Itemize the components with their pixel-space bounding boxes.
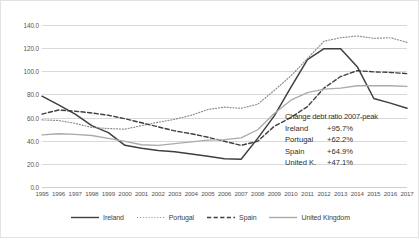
legend-swatch — [71, 214, 99, 221]
x-axis-tick-label: 2008 — [251, 190, 264, 197]
y-axis-tick-label: 80.0 — [27, 91, 39, 98]
y-axis-tick-label: 100.0 — [24, 68, 40, 75]
annotation-value: +62.2% — [327, 134, 353, 146]
x-axis-tick-label: 2005 — [201, 190, 214, 197]
y-axis-tick-label: 140.0 — [24, 22, 40, 29]
x-axis-tick-label: 2001 — [135, 190, 148, 197]
x-axis-tick-label: 2002 — [152, 190, 165, 197]
x-axis-tick-label: 1996 — [52, 190, 65, 197]
annotation-row: Portugal+62.2% — [285, 134, 378, 146]
legend-label: Portugal — [169, 214, 194, 221]
legend-swatch — [137, 214, 165, 221]
x-axis-tick-label: 2004 — [185, 190, 198, 197]
chart-legend: IrelandPortugalSpainUnited Kingdom — [1, 214, 419, 221]
legend-label: United Kingdom — [301, 214, 349, 221]
annotation-country-label: Spain — [285, 146, 327, 158]
legend-swatch — [207, 214, 235, 221]
x-axis-tick-label: 2012 — [317, 190, 330, 197]
annotation-value: +95.7% — [327, 123, 353, 135]
y-axis-tick-label: 120.0 — [24, 45, 40, 52]
chart-container: 0.020.040.060.080.0100.0120.0140.0 19951… — [0, 0, 419, 238]
y-axis-tick-labels: 0.020.040.060.080.0100.0120.0140.0 — [1, 25, 39, 187]
legend-item-ireland[interactable]: Ireland — [71, 214, 124, 221]
x-axis-tick-label: 2014 — [351, 190, 364, 197]
annotation-row: Ireland+95.7% — [285, 123, 378, 135]
annotation-value: +64.9% — [327, 146, 353, 158]
x-axis-tick-label: 2015 — [367, 190, 380, 197]
gridline — [42, 187, 407, 188]
x-axis-tick-label: 1995 — [35, 190, 48, 197]
x-axis-tick-label: 2010 — [284, 190, 297, 197]
annotation-country-label: Portugal — [285, 134, 327, 146]
x-axis-tick-label: 2009 — [268, 190, 281, 197]
annotation-row: United K.+47.1% — [285, 157, 378, 169]
annotation-title: Change debt ratio 2007-peak — [285, 111, 378, 123]
legend-label: Ireland — [103, 214, 124, 221]
legend-item-portugal[interactable]: Portugal — [137, 214, 194, 221]
legend-swatch — [269, 214, 297, 221]
annotation-value: +47.1% — [327, 157, 353, 169]
annotation-box: Change debt ratio 2007-peak Ireland+95.7… — [285, 111, 378, 169]
annotation-rows: Ireland+95.7%Portugal+62.2%Spain+64.9%Un… — [285, 123, 378, 169]
x-axis-tick-label: 1998 — [85, 190, 98, 197]
annotation-row: Spain+64.9% — [285, 146, 378, 158]
x-axis-tick-labels: 1995199619971998199920002001200220032004… — [42, 190, 407, 202]
x-axis-tick-label: 2017 — [400, 190, 413, 197]
legend-item-spain[interactable]: Spain — [207, 214, 256, 221]
y-axis-tick-label: 40.0 — [27, 137, 39, 144]
annotation-country-label: United K. — [285, 157, 327, 169]
x-axis-tick-label: 2003 — [168, 190, 181, 197]
x-axis-tick-label: 2000 — [118, 190, 131, 197]
x-axis-tick-label: 1997 — [69, 190, 82, 197]
x-axis-tick-label: 2006 — [218, 190, 231, 197]
legend-item-united-kingdom[interactable]: United Kingdom — [269, 214, 349, 221]
x-axis-tick-label: 2011 — [301, 190, 314, 197]
y-axis-tick-label: 60.0 — [27, 114, 39, 121]
legend-label: Spain — [239, 214, 256, 221]
x-axis-tick-label: 1999 — [102, 190, 115, 197]
x-axis-tick-label: 2007 — [234, 190, 247, 197]
x-axis-tick-label: 2016 — [384, 190, 397, 197]
x-axis-tick-label: 2013 — [334, 190, 347, 197]
annotation-country-label: Ireland — [285, 123, 327, 135]
y-axis-tick-label: 20.0 — [27, 160, 39, 167]
